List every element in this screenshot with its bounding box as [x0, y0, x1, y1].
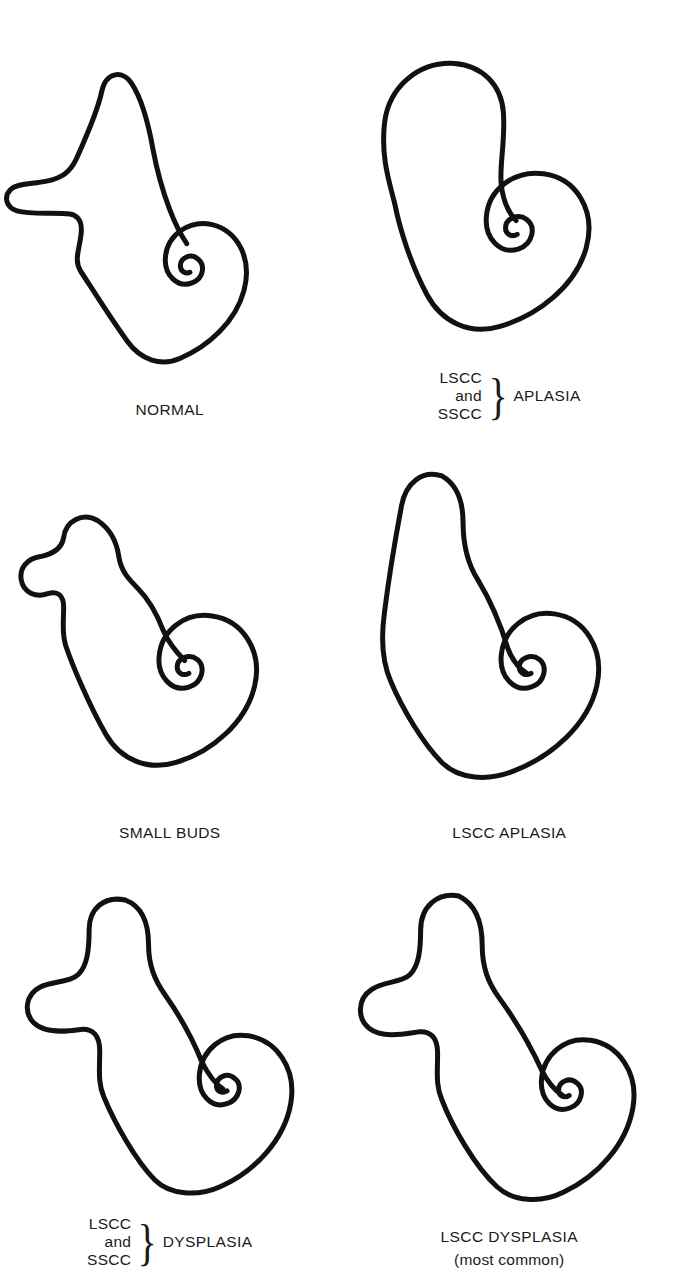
panel-lscc-dysplasia: LSCC DYSPLASIA (most common): [340, 846, 679, 1269]
panel-caption-small-buds: SMALL BUDS: [119, 824, 221, 846]
lscc-dysplasia-drawing: [340, 846, 679, 1230]
small-buds-drawing: [0, 423, 340, 822]
panel-caption-normal: NORMAL: [135, 401, 204, 423]
labyrinth-shape-lscc-dysplasia: [340, 846, 679, 1230]
small-buds-outline: [21, 517, 257, 765]
panel-lscc-aplasia: LSCC APLASIA: [340, 423, 679, 846]
panel-caption-lscc-dysplasia-sub: (most common): [441, 1251, 578, 1269]
lscc-sscc-aplasia-drawing: [340, 0, 679, 373]
normal-outline: [7, 75, 247, 362]
lscc-sscc-dysplasia-drawing: [0, 846, 340, 1217]
brace-term-aplasia: APLASIA: [513, 387, 580, 405]
panel-lscc-sscc-dysplasia: LSCC and SSCC } DYSPLASIA: [0, 846, 340, 1269]
panel-caption-lscc-aplasia: LSCC APLASIA: [452, 824, 566, 846]
brace-line-and: and: [455, 387, 482, 405]
brace-line-sscc: SSCC: [87, 1251, 131, 1269]
curly-brace-icon: }: [138, 1223, 158, 1262]
panel-caption-lscc-sscc-aplasia: LSCC and SSCC } APLASIA: [438, 369, 581, 423]
lscc-aplasia-drawing: [340, 423, 679, 822]
curly-brace-icon: }: [488, 377, 508, 416]
lscc-dysplasia-outline: [360, 895, 634, 1199]
brace-line-sscc: SSCC: [438, 405, 482, 423]
panel-normal: NORMAL: [0, 0, 340, 423]
normal-labyrinth-drawing: [0, 0, 340, 407]
labyrinth-shape-normal: [0, 0, 340, 407]
labyrinth-shape-lscc-sscc-dysplasia: [0, 846, 340, 1217]
brace-line-lscc: LSCC: [89, 1215, 132, 1233]
panel-caption-lscc-dysplasia: LSCC DYSPLASIA: [441, 1228, 578, 1250]
panel-lscc-sscc-aplasia: LSCC and SSCC } APLASIA: [340, 0, 679, 423]
lscc-sscc-aplasia-outline: [383, 63, 588, 329]
panel-small-buds: SMALL BUDS: [0, 423, 340, 846]
labyrinth-shape-lscc-aplasia: [340, 423, 679, 822]
lscc-aplasia-outline: [382, 474, 598, 777]
brace-line-and: and: [105, 1233, 132, 1251]
brace-line-lscc: LSCC: [439, 369, 482, 387]
brace-stack-dysplasia: LSCC and SSCC: [87, 1215, 131, 1269]
brace-term-dysplasia: DYSPLASIA: [163, 1233, 253, 1251]
labyrinth-shape-small-buds: [0, 423, 340, 822]
brace-stack-aplasia: LSCC and SSCC: [438, 369, 482, 423]
panel-caption-lscc-sscc-dysplasia: LSCC and SSCC } DYSPLASIA: [87, 1215, 252, 1269]
labyrinth-shape-lscc-sscc-aplasia: [340, 0, 679, 373]
lscc-sscc-dysplasia-outline: [27, 899, 292, 1193]
labyrinth-variant-grid: NORMAL LSCC and SSCC } APLASIA: [0, 0, 679, 1269]
